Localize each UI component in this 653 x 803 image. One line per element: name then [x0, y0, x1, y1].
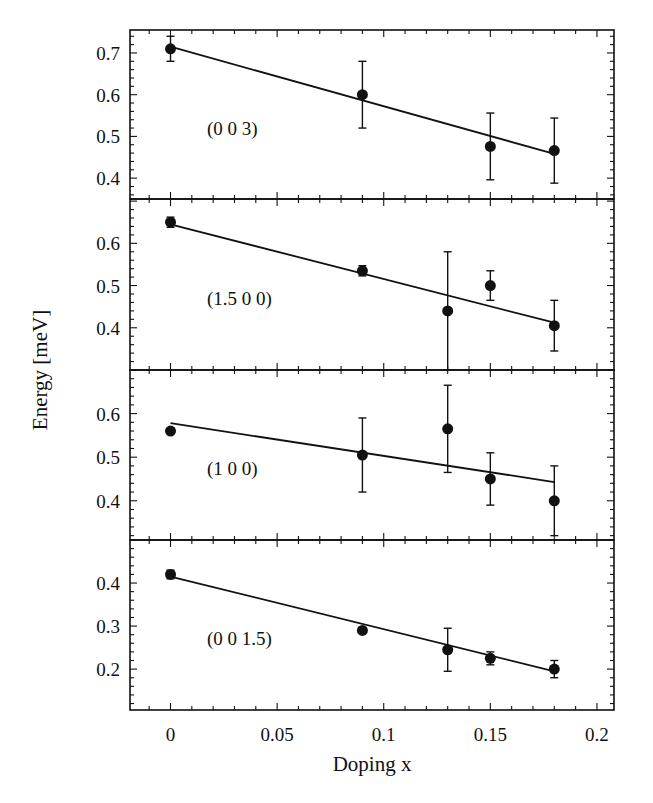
data-point — [549, 664, 560, 675]
data-point — [485, 653, 496, 664]
data-point — [165, 569, 176, 580]
y-tick-label: 0.4 — [96, 573, 120, 594]
y-tick-label: 0.4 — [96, 168, 120, 189]
y-axis-title: Energy [meV] — [28, 310, 52, 430]
y-tick-label: 0.4 — [96, 491, 120, 512]
y-tick-label: 0.6 — [96, 85, 120, 106]
figure: 0.40.50.60.7(0 0 3)0.40.50.6(1.5 0 0)0.4… — [0, 0, 653, 803]
panel-label: (1.5 0 0) — [207, 288, 272, 310]
panel-3: 0.40.50.6(1 0 0) — [96, 370, 614, 540]
data-point — [549, 320, 560, 331]
panel-label: (0 0 1.5) — [207, 628, 272, 650]
panels: 0.40.50.60.7(0 0 3)0.40.50.6(1.5 0 0)0.4… — [96, 30, 614, 710]
data-point — [357, 89, 368, 100]
y-tick-label: 0.6 — [96, 233, 120, 254]
x-axis-title: Doping x — [333, 752, 412, 776]
y-tick-label: 0.5 — [96, 447, 120, 468]
panel-frame — [130, 199, 614, 370]
data-point — [485, 473, 496, 484]
data-point — [549, 495, 560, 506]
x-tick-label: 0.2 — [585, 724, 609, 745]
panel-1: 0.40.50.60.7(0 0 3) — [96, 30, 614, 199]
panel-label: (1 0 0) — [207, 458, 258, 480]
data-point — [442, 423, 453, 434]
data-point — [485, 141, 496, 152]
y-tick-label: 0.6 — [96, 404, 120, 425]
data-point — [165, 43, 176, 54]
x-axis: 00.050.10.150.2 — [166, 724, 609, 745]
data-point — [442, 644, 453, 655]
data-point — [357, 450, 368, 461]
data-point — [442, 305, 453, 316]
y-tick-label: 0.3 — [96, 616, 120, 637]
y-tick-label: 0.4 — [96, 318, 120, 339]
x-tick-label: 0.05 — [260, 724, 293, 745]
y-tick-label: 0.2 — [96, 659, 120, 680]
data-point — [165, 426, 176, 437]
panel-4: 0.20.30.4(0 0 1.5) — [96, 540, 614, 710]
y-tick-label: 0.7 — [96, 43, 120, 64]
data-point — [485, 280, 496, 291]
x-tick-label: 0 — [166, 724, 176, 745]
data-point — [357, 265, 368, 276]
panel-2: 0.40.50.6(1.5 0 0) — [96, 199, 614, 370]
data-point — [357, 625, 368, 636]
panel-label: (0 0 3) — [207, 118, 258, 140]
x-tick-label: 0.15 — [474, 724, 507, 745]
data-point — [549, 145, 560, 156]
y-tick-label: 0.5 — [96, 126, 120, 147]
panel-frame — [130, 370, 614, 540]
y-tick-label: 0.5 — [96, 276, 120, 297]
panel-frame — [130, 540, 614, 710]
x-tick-label: 0.1 — [372, 724, 396, 745]
data-point — [165, 217, 176, 228]
fit-line — [171, 577, 555, 672]
